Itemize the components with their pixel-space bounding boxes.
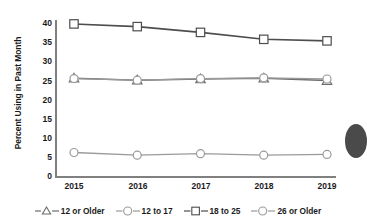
square-marker-icon (184, 205, 208, 217)
page-edge-artifact (345, 124, 367, 158)
legend-label-12-or-older: 12 or Older (61, 206, 105, 216)
data-point (260, 74, 268, 82)
legend-item-26-or-older[interactable]: 26 or Older (251, 205, 321, 217)
data-point (70, 149, 78, 157)
series-layer (69, 20, 331, 159)
chart-legend: 12 or Older 12 to 17 18 to 25 (0, 203, 356, 219)
data-point (323, 150, 331, 158)
data-point (260, 151, 268, 159)
data-point (70, 20, 78, 28)
data-point (323, 75, 331, 83)
data-point (197, 150, 205, 158)
data-point (133, 76, 141, 84)
circle-marker-icon (116, 205, 140, 217)
data-point (133, 151, 141, 159)
legend-item-18-to-25[interactable]: 18 to 25 (184, 205, 241, 217)
legend-item-12-or-older[interactable]: 12 or Older (35, 205, 105, 217)
legend-label-12-to-17: 12 to 17 (142, 206, 173, 216)
legend-label-18-to-25: 18 to 25 (210, 206, 241, 216)
circle-marker-icon (251, 205, 275, 217)
data-point (133, 22, 141, 30)
data-point (323, 37, 331, 45)
triangle-marker-icon (35, 205, 59, 217)
data-point (197, 75, 205, 83)
series-18-to-25 (70, 20, 331, 45)
legend-item-12-to-17[interactable]: 12 to 17 (116, 205, 173, 217)
data-point (70, 75, 78, 83)
series-26-or-older (70, 74, 331, 84)
data-point (260, 35, 268, 43)
legend-label-26-or-older: 26 or Older (277, 206, 321, 216)
data-point (196, 28, 204, 36)
series-12-to-17 (70, 149, 331, 160)
